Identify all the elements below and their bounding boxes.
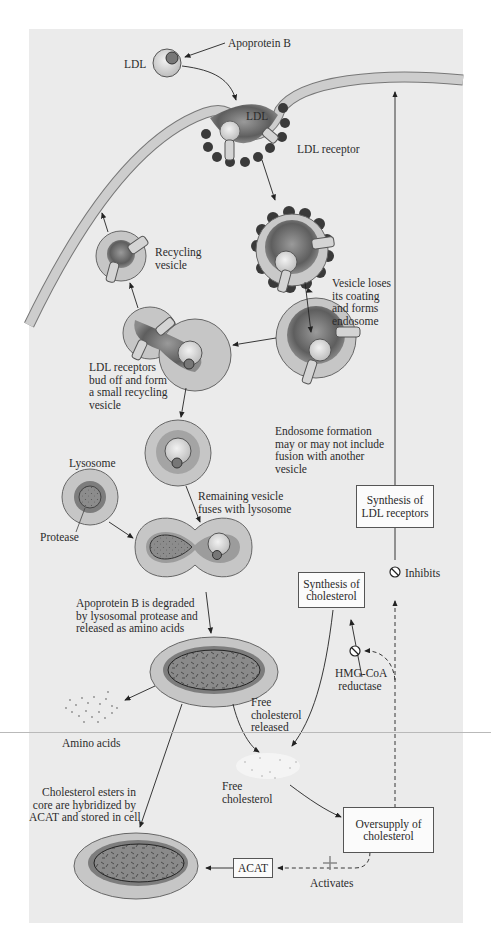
free-cholesterol-cloud — [236, 753, 300, 779]
label-ldl: LDL — [124, 58, 146, 71]
label-cholesterol-esters: Cholesterol esters in core are hybridize… — [29, 786, 136, 824]
inhibit-symbol — [390, 567, 400, 577]
label-free-cholesterol-released: Free cholesterol released — [251, 696, 301, 734]
ldl-receptor-bound — [225, 140, 234, 160]
label-receptors-bud-off: LDL receptors bud off and form a small r… — [89, 361, 168, 411]
ldl-in-pit — [220, 121, 240, 141]
label-endosome-formation: Endosome formation may or may not includ… — [275, 425, 384, 475]
label-ldl-pit: LDL — [246, 110, 268, 123]
remaining-vesicle — [145, 420, 211, 486]
label-vesicle-loses-coating: Vesicle loses its coating and forms endo… — [332, 277, 391, 327]
label-amino-acids: Amino acids — [62, 737, 120, 750]
label-lysosome: Lysosome — [69, 457, 116, 470]
label-activates: Activates — [310, 877, 353, 890]
label-apoprotein-degraded: Apoprotein B is degraded by lysosomal pr… — [76, 597, 198, 635]
label-inhibits: Inhibits — [405, 567, 440, 580]
box-oversupply-cholesterol: Oversupply of cholesterol — [343, 807, 434, 853]
amino-acids-cloud — [65, 691, 118, 723]
label-recycling-vesicle: Recycling vesicle — [155, 246, 202, 271]
coated-vesicle — [251, 206, 335, 293]
inhibit-symbol-hmg — [350, 646, 360, 656]
box-synthesis-cholesterol: Synthesis of cholesterol — [298, 572, 365, 608]
scan-artifact-line — [0, 732, 491, 733]
box-acat: ACAT — [233, 858, 273, 878]
label-remaining-vesicle: Remaining vesicle fuses with lysosome — [198, 490, 291, 515]
label-ldl-receptor: LDL receptor — [297, 143, 359, 156]
box-synthesis-ldl-receptors: Synthesis of LDL receptors — [356, 485, 434, 528]
label-hmg-coa-reductase: HMG-CoA reductase — [335, 667, 385, 692]
label-apoprotein-b: Apoprotein B — [228, 37, 291, 50]
ldl-particle — [153, 49, 181, 77]
label-protease: Protease — [40, 531, 79, 544]
fused-lysosome — [135, 518, 252, 577]
label-free-cholesterol: Free cholesterol — [222, 780, 272, 805]
stored-cholesterol-ester — [74, 833, 198, 899]
recycling-vesicle — [96, 231, 149, 283]
